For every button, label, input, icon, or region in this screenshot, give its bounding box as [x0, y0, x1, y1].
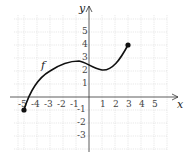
x-axis-label: x: [177, 98, 184, 111]
y-tick-labels: 5 4 3 2 1 -1 -2 -3: [77, 26, 88, 140]
function-graph: x y -5 -4 -3 -2 -1 1 2 3 4 5 5 4 3 2 1 -…: [0, 0, 191, 157]
svg-text:1: 1: [100, 99, 106, 109]
endpoint-right: [125, 42, 130, 47]
svg-text:4: 4: [82, 39, 88, 49]
svg-text:5: 5: [152, 99, 158, 109]
svg-text:-1: -1: [77, 104, 86, 114]
endpoint-left: [21, 107, 26, 112]
svg-text:4: 4: [139, 99, 145, 109]
svg-text:2: 2: [82, 65, 88, 75]
svg-text:5: 5: [82, 26, 88, 36]
x-tick-labels: -5 -4 -3 -2 -1 1 2 3 4 5: [18, 99, 158, 109]
svg-text:3: 3: [126, 99, 132, 109]
y-axis-label: y: [78, 2, 86, 15]
svg-text:-3: -3: [44, 99, 53, 109]
svg-text:-2: -2: [77, 117, 86, 127]
svg-text:1: 1: [82, 78, 88, 88]
svg-text:-2: -2: [57, 99, 66, 109]
svg-text:3: 3: [82, 52, 88, 62]
function-label: f: [40, 59, 47, 72]
axes: [10, 6, 178, 152]
svg-text:2: 2: [113, 99, 119, 109]
svg-text:-4: -4: [31, 99, 40, 109]
svg-text:-3: -3: [77, 130, 86, 140]
